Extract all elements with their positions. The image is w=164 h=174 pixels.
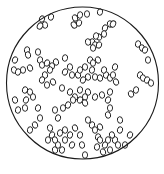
cell <box>26 64 33 72</box>
cell <box>82 63 88 70</box>
cell <box>90 60 95 67</box>
cell <box>126 131 133 139</box>
cell <box>85 38 91 45</box>
cell <box>92 93 98 100</box>
cell <box>20 67 25 74</box>
cell <box>77 131 83 138</box>
cell <box>62 137 67 144</box>
cell <box>115 141 121 148</box>
cell <box>110 72 115 79</box>
cell <box>117 116 123 123</box>
cell <box>71 124 78 132</box>
cell <box>105 137 110 144</box>
cell <box>62 54 68 61</box>
cell <box>90 44 96 51</box>
cell <box>68 141 75 149</box>
cell <box>145 57 150 64</box>
cell <box>35 49 40 56</box>
cell <box>44 82 49 89</box>
cell <box>11 56 18 64</box>
cell <box>27 126 33 133</box>
cell <box>77 86 83 93</box>
cell <box>35 104 42 112</box>
cell <box>22 104 28 111</box>
cell <box>15 106 21 113</box>
cell <box>22 96 29 104</box>
cells-group <box>11 8 154 158</box>
cell <box>89 66 95 73</box>
cell <box>107 88 113 95</box>
cell <box>12 96 19 104</box>
cell <box>25 51 32 59</box>
cell <box>49 78 56 86</box>
cell <box>84 11 89 18</box>
cell <box>62 126 68 133</box>
cell <box>61 68 68 76</box>
cell <box>97 136 103 143</box>
cell <box>112 78 119 86</box>
cell <box>59 146 65 153</box>
cell <box>133 86 139 93</box>
cell <box>107 105 112 112</box>
cell <box>79 141 85 148</box>
cell <box>101 31 106 38</box>
cell <box>82 152 87 159</box>
cell <box>112 63 119 71</box>
cell <box>37 115 42 122</box>
cell <box>59 85 64 92</box>
cell <box>47 66 53 73</box>
cell <box>99 148 106 156</box>
cell <box>92 127 97 134</box>
cell <box>45 137 50 144</box>
cell <box>55 114 62 122</box>
cell <box>47 124 53 131</box>
cell <box>104 96 111 104</box>
cell <box>81 99 88 107</box>
cell <box>77 11 83 18</box>
cell <box>99 91 105 98</box>
cell <box>105 111 112 119</box>
cell <box>30 94 35 101</box>
cell <box>107 147 112 154</box>
cell <box>97 74 104 82</box>
cell <box>148 79 154 86</box>
cell <box>101 66 107 73</box>
cell <box>117 126 124 134</box>
cell <box>93 32 99 39</box>
cell <box>60 105 65 112</box>
cell <box>69 72 74 79</box>
cell <box>39 76 46 84</box>
microscope-field-diagram <box>0 0 164 174</box>
cell <box>94 143 100 150</box>
cell <box>52 107 57 114</box>
cell <box>70 96 76 103</box>
